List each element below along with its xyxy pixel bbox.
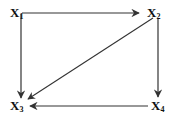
node-x4: X4 [151,99,164,112]
node-x2: X2 [147,6,160,19]
node-x3: X3 [10,99,23,112]
node-x1-subscript: 1 [19,12,23,21]
causal-diagram: X1 X2 X3 X4 [0,0,173,117]
node-x2-letter: X [147,5,156,20]
edge-x2-x3 [28,18,153,99]
node-x4-subscript: 4 [160,105,164,114]
node-x4-letter: X [151,98,160,113]
node-x3-letter: X [10,98,19,113]
node-x1-letter: X [10,5,19,20]
node-x1: X1 [10,6,23,19]
node-x2-subscript: 2 [156,12,160,21]
node-x3-subscript: 3 [19,105,23,114]
